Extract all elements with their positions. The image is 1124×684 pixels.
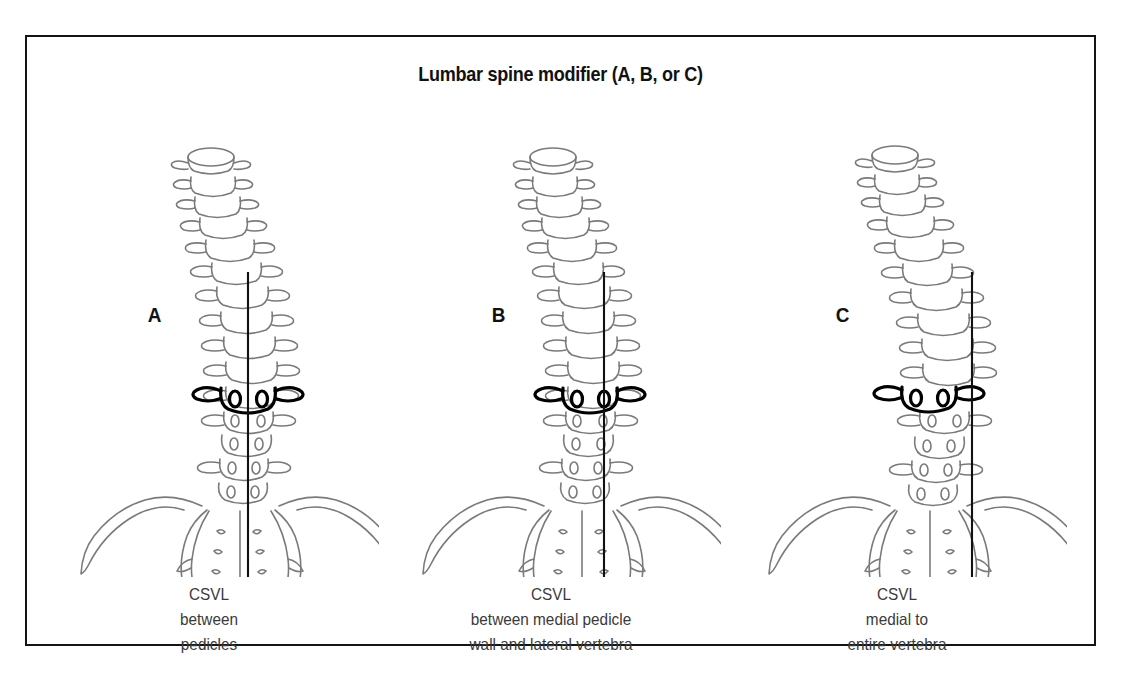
caption-a-line1: CSVL bbox=[51, 582, 367, 607]
spine-illustration-c bbox=[727, 107, 1067, 577]
caption-a: CSVL between pedicles bbox=[51, 582, 367, 657]
panel-a: A bbox=[39, 107, 379, 632]
caption-c-line3: entire vertebra bbox=[739, 632, 1055, 657]
spine-illustration-b bbox=[381, 107, 721, 577]
caption-a-line3: pedicles bbox=[51, 632, 367, 657]
lumbar-vertebrae-b bbox=[544, 412, 638, 457]
thoracic-vertebrae-a bbox=[171, 148, 299, 409]
lumbar-vertebrae-c bbox=[898, 412, 992, 459]
spine-illustration-a bbox=[39, 107, 379, 577]
caption-b: CSVL between medial pedicle wall and lat… bbox=[393, 582, 709, 657]
panel-b: B bbox=[381, 107, 721, 632]
pelvis-c bbox=[769, 461, 1067, 577]
thoracic-vertebrae-c bbox=[855, 146, 996, 386]
pelvis-a bbox=[81, 459, 379, 577]
caption-c-line1: CSVL bbox=[739, 582, 1055, 607]
caption-c-line2: medial to bbox=[739, 607, 1055, 632]
figure-frame: Lumbar spine modifier (A, B, or C) A bbox=[25, 35, 1096, 646]
caption-a-line2: between bbox=[51, 607, 367, 632]
panel-c: C bbox=[727, 107, 1067, 632]
caption-b-line1: CSVL bbox=[393, 582, 709, 607]
apical-vertebra-c bbox=[874, 387, 984, 412]
pelvis-b bbox=[423, 459, 721, 577]
caption-b-line3: wall and lateral vertebra bbox=[393, 632, 709, 657]
figure-title: Lumbar spine modifier (A, B, or C) bbox=[91, 62, 1030, 86]
caption-c: CSVL medial to entire vertebra bbox=[739, 582, 1055, 657]
caption-b-line2: between medial pedicle bbox=[393, 607, 709, 632]
thoracic-vertebrae-b bbox=[513, 148, 641, 409]
